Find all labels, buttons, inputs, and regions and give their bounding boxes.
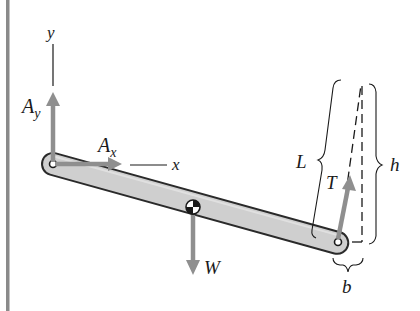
force-t-arrow — [338, 188, 348, 239]
dimension-l-label: L — [295, 151, 307, 172]
force-ay-label: Ay — [20, 95, 41, 121]
dimension-l-brace — [312, 80, 341, 238]
dimension-h-label: h — [390, 154, 400, 175]
y-axis-label: y — [45, 23, 55, 42]
center-of-gravity-icon — [186, 200, 200, 214]
dimension-b-brace — [333, 258, 363, 272]
force-t-arrowhead — [342, 175, 356, 191]
force-ax-label: Ax — [96, 134, 117, 160]
x-axis-label: x — [171, 155, 180, 174]
dimension-b-label: b — [342, 276, 352, 297]
free-body-diagram: y x Ay Ax W T L h b — [0, 0, 420, 311]
pin-b-icon — [335, 239, 342, 246]
force-t-label: T — [326, 172, 338, 193]
dimension-h-brace — [369, 84, 382, 244]
wall-bar — [6, 0, 10, 311]
force-w-arrowhead — [186, 260, 200, 275]
force-w-label: W — [204, 257, 222, 278]
force-ay-arrowhead — [46, 92, 60, 106]
